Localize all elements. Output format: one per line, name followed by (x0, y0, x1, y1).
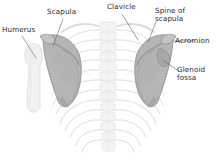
label-glenoid-fossa: Glenoid fossa (177, 66, 205, 83)
label-scapula: Scapula (47, 8, 76, 16)
leader-clavicle (122, 14, 138, 40)
label-clavicle: Clavicle (107, 3, 136, 11)
right-scapula (135, 34, 176, 107)
anatomy-figure: Humerus Scapula Clavicle Spine of scapul… (0, 0, 216, 163)
left-scapula (40, 34, 81, 107)
label-humerus: Humerus (2, 26, 35, 34)
label-acromion: Acromion (175, 37, 210, 45)
vertebral-column (100, 22, 116, 152)
label-spine-of-scapula: Spine of scapula (155, 7, 185, 24)
